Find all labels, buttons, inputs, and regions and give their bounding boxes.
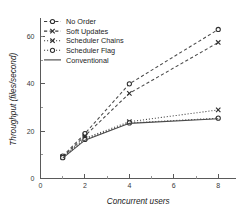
y-tick-label-40: 40 <box>27 80 35 87</box>
axes-group: 020406002468 <box>27 18 236 189</box>
y-tick-label-20: 20 <box>27 128 35 135</box>
marker-point-3-3 <box>216 116 220 120</box>
x-tick-label-4: 4 <box>127 182 131 189</box>
legend-label-scheduler-flag: Scheduler Flag <box>66 46 115 55</box>
legend-label-no-order: No Order <box>66 17 97 26</box>
x-axis-title: Concurrent users <box>107 197 170 206</box>
legend-label-scheduler-chains: Scheduler Chains <box>66 36 124 45</box>
legend-label-conventional: Conventional <box>66 56 109 65</box>
chart-legend: No OrderSoft UpdatesScheduler ChainsSche… <box>44 17 124 64</box>
legend-label-soft-updates: Soft Updates <box>66 27 109 36</box>
marker-point-0-3 <box>216 27 220 31</box>
marker-point-2-3 <box>216 108 220 112</box>
x-tick-label-0: 0 <box>39 182 43 189</box>
legend-marker-3 <box>50 48 54 52</box>
y-tick-label-0: 0 <box>31 175 35 182</box>
y-axis-title: Throughput (files/second) <box>9 53 18 146</box>
chart-container: 020406002468 No OrderSoft UpdatesSchedul… <box>0 0 246 212</box>
x-tick-label-6: 6 <box>172 182 176 189</box>
x-tick-label-2: 2 <box>83 182 87 189</box>
x-tick-label-8: 8 <box>216 182 220 189</box>
marker-point-0-2 <box>127 82 131 86</box>
y-tick-label-60: 60 <box>27 33 35 40</box>
marker-point-1-3 <box>216 40 220 44</box>
marker-point-1-2 <box>127 91 131 95</box>
legend-marker-0 <box>50 19 54 23</box>
line-chart-plot: 020406002468 No OrderSoft UpdatesSchedul… <box>0 0 246 212</box>
